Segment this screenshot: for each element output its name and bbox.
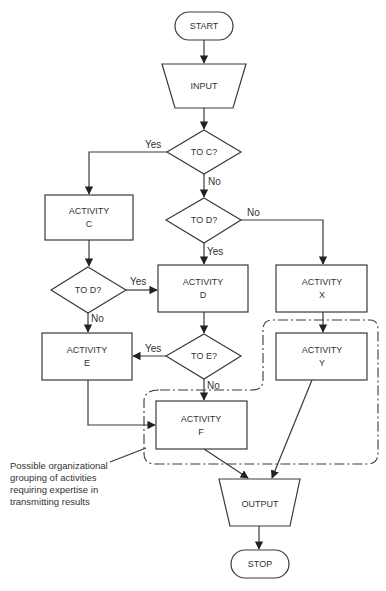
activity-e-line2: E [84,358,90,368]
input-label: INPUT [191,81,219,91]
activity-c-line1: ACTIVITY [69,206,110,216]
activity-y-line1: ACTIVITY [302,345,343,355]
decision-to-e-label: TO E? [191,351,217,361]
annotation-line-4: transmitting results [10,496,90,507]
stop-label: STOP [248,559,272,569]
decision-to-d-left-label: TO D? [75,285,101,295]
annotation-line-3: requiring expertise in [10,484,98,495]
decision-to-d-left[interactable]: TO D? [51,267,126,313]
activity-c[interactable]: ACTIVITY C [45,195,133,240]
decision-to-c[interactable]: TO C? [167,130,241,174]
annotation-line-2: grouping of activities [10,472,97,483]
activity-f-line1: ACTIVITY [181,414,222,424]
edge-label-to-e-yes: Yes [145,343,161,354]
activity-c-line2: C [86,219,93,229]
grouping-annotation: Possible organizational grouping of acti… [10,460,108,507]
edge-label-to-c-no: No [208,176,221,187]
activity-e-line1: ACTIVITY [67,345,108,355]
activity-x-line1: ACTIVITY [302,277,343,287]
activity-f[interactable]: ACTIVITY F [156,401,247,449]
edge-label-to-d-left-no: No [91,313,104,324]
stop-node[interactable]: STOP [231,550,289,578]
output-node[interactable]: OUTPUT [219,479,300,526]
decision-to-d-center-label: TO D? [191,215,217,225]
start-label: START [190,21,219,31]
activity-x[interactable]: ACTIVITY X [276,265,367,312]
output-label: OUTPUT [242,499,280,509]
activity-d-line1: ACTIVITY [183,277,224,287]
start-node[interactable]: START [175,12,233,40]
activity-y[interactable]: ACTIVITY Y [276,333,367,380]
edge-label-to-d-center-yes: Yes [207,246,223,257]
flowchart-canvas: START INPUT TO C? ACTIVITY C TO D? TO D?… [0,0,386,591]
activity-x-line2: X [319,290,325,300]
activity-d-line2: D [200,290,207,300]
decision-to-e[interactable]: TO E? [166,334,241,379]
activity-f-line2: F [198,427,204,437]
decision-to-c-label: TO C? [191,147,217,157]
decision-to-d-center[interactable]: TO D? [166,198,241,243]
input-node[interactable]: INPUT [162,64,246,108]
activity-y-line2: Y [319,358,325,368]
annotation-line-1: Possible organizational [10,460,108,471]
edge-label-to-d-center-no: No [247,207,260,218]
edge-label-to-c-yes: Yes [145,139,161,150]
activity-d[interactable]: ACTIVITY D [158,265,248,312]
edge-label-to-e-no: No [207,380,220,391]
activity-e[interactable]: ACTIVITY E [42,333,132,380]
edge-label-to-d-left-yes: Yes [130,276,146,287]
